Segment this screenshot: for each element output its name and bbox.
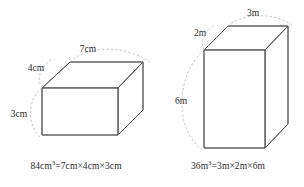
prism-2-depth-label: 2m [194, 28, 207, 38]
figure-2-prism: 3m 2m 6m [175, 8, 292, 150]
caption-row: 84cm3=7cm×4cm×3cm 36m3=3m×2m×6m [0, 160, 304, 172]
prism-2-factor-2: 2m [235, 161, 247, 171]
prism-1-height-arc [30, 88, 42, 137]
prism-2-front-face [204, 50, 265, 148]
prism-2-length-arc [228, 16, 292, 26]
prism-1-volume-caption: 84cm3=7cm×4cm×3cm [0, 160, 152, 172]
prism-1-length-label: 7cm [80, 44, 97, 54]
prism-1-volume-value: 84 [30, 161, 40, 171]
prism-1-height-label: 3cm [11, 109, 28, 119]
prism-1-depth-label: 4cm [28, 63, 45, 73]
prism-1-volume-unit: cm [40, 161, 52, 171]
prism-1-factor-3: 3cm [105, 161, 122, 171]
prism-2-volume-value: 36 [191, 161, 201, 171]
prism-2-factor-3: 6m [253, 161, 265, 171]
figure-1-prism: 7cm 4cm 3cm [11, 44, 150, 137]
prism-1-front-face [42, 88, 118, 135]
prism-2-length-label: 3m [247, 8, 260, 18]
prism-1-factor-1: 7cm [61, 161, 78, 171]
prism-2-factor-1: 3m [217, 161, 229, 171]
prisms-illustration: 7cm 4cm 3cm 3m 2m 6m [0, 0, 304, 187]
prism-1-factor-2: 4cm [83, 161, 100, 171]
prism-2-volume-caption: 36m3=3m×2m×6m [152, 160, 304, 172]
figure-sheet: 7cm 4cm 3cm 3m 2m 6m [0, 0, 304, 187]
prism-2-height-label: 6m [175, 96, 188, 106]
